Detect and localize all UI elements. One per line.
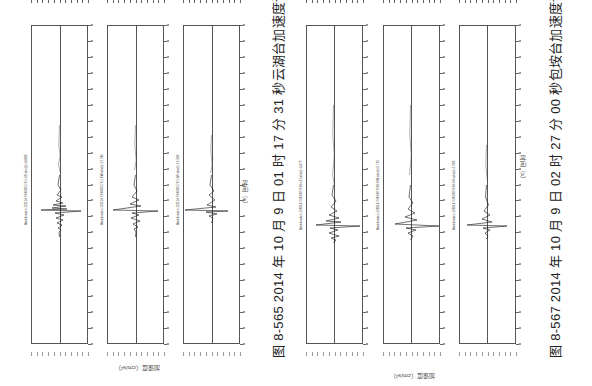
amp-tick (183, 0, 184, 3)
time-tick-label (167, 104, 169, 106)
time-tick-label (366, 72, 368, 74)
amp-tick (417, 0, 418, 3)
time-tick-label (519, 88, 521, 90)
time-tick-label (366, 184, 368, 186)
time-tick-label (167, 199, 169, 201)
amp-tick-label (136, 352, 137, 356)
amp-tick-label (206, 352, 207, 356)
time-tick-label (443, 24, 445, 26)
amp-tick (394, 0, 395, 3)
time-tick-label (366, 295, 368, 297)
amp-tick-label (107, 352, 108, 356)
panel-annotation: Acceleration 128314.9.0068270.00.NS abs(… (452, 161, 456, 230)
amp-tick-label (470, 352, 471, 356)
time-tick-label (167, 263, 169, 265)
time-tick-label (519, 295, 521, 297)
time-tick-label (91, 168, 93, 170)
time-tick-label (243, 343, 245, 345)
amp-tick-label (488, 352, 489, 356)
time-tick-label (91, 247, 93, 249)
time-tick-label (443, 120, 445, 122)
amp-tick (335, 0, 336, 3)
time-tick-label (243, 104, 245, 106)
time-tick-label (243, 168, 245, 170)
time-tick-label (167, 311, 169, 313)
amp-tick-label (223, 352, 224, 356)
time-tick-label (243, 263, 245, 265)
time-tick-label (91, 231, 93, 233)
time-tick-label (167, 279, 169, 281)
amp-tick (31, 0, 32, 3)
waveform-2 (107, 25, 164, 344)
amp-tick (48, 0, 49, 3)
time-tick-label (167, 40, 169, 42)
amp-tick (363, 0, 364, 3)
amp-tick (217, 0, 218, 3)
time-tick-label (91, 152, 93, 154)
amp-tick-label (124, 352, 125, 356)
time-tick-label (519, 279, 521, 281)
amp-tick-label (71, 352, 72, 356)
time-tick-label (366, 263, 368, 265)
waveform-6 (459, 25, 516, 344)
amp-tick (470, 0, 471, 3)
panel-annotation: Acceleration 128314.9.0068270.00.UD abs(… (299, 161, 303, 230)
amp-tick (42, 0, 43, 3)
amp-tick (317, 0, 318, 3)
amp-tick-label (229, 352, 230, 356)
amp-tick (389, 0, 390, 3)
amp-tick-label (440, 352, 441, 356)
amp-tick (113, 0, 114, 3)
time-tick-label (243, 72, 245, 74)
time-tick-label (243, 24, 245, 26)
amp-tick (153, 0, 154, 3)
amp-tick-label (400, 352, 401, 356)
time-tick-label (243, 279, 245, 281)
amp-tick-label (476, 352, 477, 356)
time-tick-label (91, 72, 93, 74)
time-tick-label (243, 152, 245, 154)
y-axis-label: 加速度（cm/s²） (115, 364, 160, 373)
amp-tick-label (31, 352, 32, 356)
amp-tick (329, 0, 330, 3)
amp-tick-label (406, 352, 407, 356)
y-axis-label: 加速度（cm/s²） (390, 372, 435, 381)
amp-tick-label (77, 352, 78, 356)
time-tick-label (443, 199, 445, 201)
time-tick-label (366, 215, 368, 217)
time-tick-label (443, 215, 445, 217)
amp-tick (130, 0, 131, 3)
time-tick-label (91, 343, 93, 345)
time-tick-label (91, 120, 93, 122)
time-tick-label (443, 88, 445, 90)
panel-annotation: Acceleration 131114.9.0068117.01.EW abs(… (100, 154, 104, 225)
time-tick-label (519, 247, 521, 249)
amp-tick-label (329, 352, 330, 356)
amp-tick (200, 0, 201, 3)
time-tick-label (366, 88, 368, 90)
amp-tick (429, 0, 430, 3)
amp-tick (440, 0, 441, 3)
time-tick-label (519, 184, 521, 186)
time-tick-label (443, 247, 445, 249)
amp-tick-label (389, 352, 390, 356)
amp-tick (406, 0, 407, 3)
amp-tick-label (118, 352, 119, 356)
amp-tick (505, 0, 506, 3)
waveform-3 (183, 25, 240, 344)
amp-tick-label (240, 352, 241, 356)
amp-tick-label (234, 352, 235, 356)
time-tick-label (243, 231, 245, 233)
time-tick-label (243, 247, 245, 249)
figure-caption: 图 8-567 2014 年 10 月 9 日 02 时 27 分 00 秒包垵… (545, 0, 564, 358)
amp-tick-label (423, 352, 424, 356)
amp-tick-label (417, 352, 418, 356)
time-tick-label (443, 104, 445, 106)
amp-tick (136, 0, 137, 3)
time-tick-label (167, 24, 169, 26)
amp-tick (82, 0, 83, 3)
amp-tick-label (482, 352, 483, 356)
time-tick-label (366, 152, 368, 154)
time-tick-label (443, 279, 445, 281)
amp-tick-label (510, 352, 511, 356)
